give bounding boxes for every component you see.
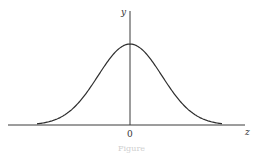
y-axis-label: y — [120, 7, 127, 17]
x-axis-label: z — [244, 127, 250, 137]
figure-caption: Figure — [118, 144, 145, 153]
origin-tick-label: 0 — [127, 129, 133, 139]
normal-curve-chart: y 0 z Figure — [0, 0, 260, 153]
